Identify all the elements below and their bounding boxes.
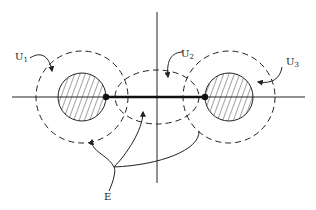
label-u3-sub: 3	[294, 61, 298, 69]
u1-arrow	[30, 55, 52, 71]
diagram-canvas	[0, 0, 316, 210]
segment-left-endpoint	[103, 94, 109, 100]
e-arrow-left	[92, 140, 114, 167]
label-u3: U3	[286, 57, 299, 69]
right-hatched-disk	[205, 73, 253, 121]
label-u2: U2	[181, 49, 194, 61]
label-u1-sub: 1	[23, 56, 27, 64]
e-arrow-right-curve	[157, 131, 202, 162]
e-arrow-to-u3	[157, 132, 201, 162]
u3-arrow	[258, 67, 282, 82]
label-u2-sub: 2	[189, 53, 193, 61]
label-e: E	[104, 192, 111, 202]
segment-right-endpoint	[202, 94, 208, 100]
e-stem	[109, 167, 115, 191]
e-arrow-middle	[114, 112, 143, 167]
label-u1: U1	[15, 52, 28, 64]
left-hatched-disk	[58, 73, 106, 121]
